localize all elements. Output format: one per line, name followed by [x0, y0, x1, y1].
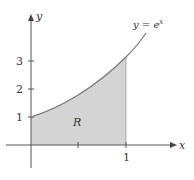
- curve-label-exponent: x: [159, 18, 163, 26]
- curve-label: y = ex: [132, 18, 163, 30]
- y-tick-label-1: 1: [16, 111, 23, 124]
- y-tick-label-3: 3: [16, 55, 23, 68]
- x-tick-label-1: 1: [123, 151, 130, 164]
- y-tick-label-2: 2: [16, 83, 23, 96]
- y-axis-label: y: [35, 10, 43, 23]
- x-axis-arrow-icon: [170, 142, 177, 148]
- region-under-exponential-diagram: y x 3 2 1 1 R y = ex: [0, 0, 194, 180]
- x-axis-label: x: [179, 139, 186, 152]
- curve-label-base: y = e: [132, 19, 159, 30]
- region-label: R: [72, 116, 81, 129]
- y-axis-arrow-icon: [28, 14, 34, 21]
